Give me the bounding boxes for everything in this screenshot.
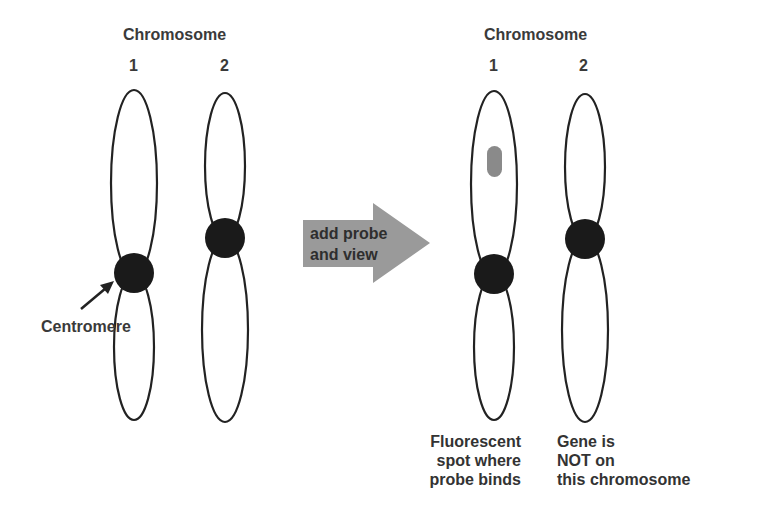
centromere [205,218,245,258]
right-chromosome-1-label: 1 [489,57,498,75]
left-chromosome-1-label: 1 [129,57,138,75]
left-chromosome-1 [111,90,157,420]
arrow-label: add probe and view [310,223,387,265]
caption-1-line-2: spot where [413,451,521,470]
caption-2-line-3: this chromosome [557,470,690,489]
arrow-label-line-2: and view [310,244,387,265]
arrow-label-line-1: add probe [310,223,387,244]
right-chromosome-2-label: 2 [579,57,588,75]
centromere [565,219,605,259]
caption-2-line-1: Gene is [557,432,690,451]
fluorescent-probe-spot [487,146,502,177]
caption-1-line-3: probe binds [413,470,521,489]
left-chromosome-2 [202,93,248,422]
left-chromosome-2-label: 2 [220,57,229,75]
centromere [474,254,514,294]
centromere-pointer-arrow [81,281,114,309]
centromere-label: Centromere [41,318,131,336]
caption-2-line-2: NOT on [557,451,690,470]
right-chromosome-1 [471,91,517,420]
right-chromosome-2 [562,94,608,422]
caption-gene-not-on: Gene is NOT on this chromosome [557,432,690,489]
caption-fluorescent-spot: Fluorescent spot where probe binds [413,432,521,489]
right-title: Chromosome [484,26,587,44]
centromere [114,253,154,293]
caption-1-line-1: Fluorescent [413,432,521,451]
left-title: Chromosome [123,26,226,44]
